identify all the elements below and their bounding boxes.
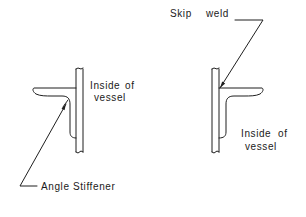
left-callout-leader: [20, 104, 66, 186]
diagram-canvas: Inside of vessel Angle Stiffener Skip we…: [0, 0, 306, 217]
left-vessel-wall: [76, 68, 83, 153]
left-detail: Inside of vessel Angle Stiffener: [20, 68, 135, 192]
right-detail: Skip weld Inside of vessel: [170, 8, 288, 153]
right-wall-break-top: [212, 68, 219, 69]
left-label-vessel: vessel: [94, 92, 126, 103]
right-leader-arrowhead: [220, 82, 225, 89]
left-label-inside: Inside: [90, 80, 120, 91]
left-wall-edges: [76, 69, 83, 152]
left-angle-stiffener: [33, 88, 76, 138]
left-label-of: of: [125, 80, 135, 91]
left-wall-break-bottom: [76, 151, 83, 153]
weld-label: weld: [205, 8, 229, 19]
skip-label: Skip: [170, 8, 192, 19]
right-label-vessel: vessel: [245, 141, 277, 152]
stiffener-diagram: Inside of vessel Angle Stiffener Skip we…: [0, 0, 306, 217]
right-vessel-wall: [212, 68, 219, 153]
right-label-inside: Inside: [241, 128, 271, 139]
angle-stiffener-label: Angle Stiffener: [41, 181, 115, 192]
right-wall-edges: [212, 69, 219, 152]
right-wall-break-bottom: [212, 151, 219, 153]
skip-weld-leader: [220, 20, 263, 88]
left-wall-break-top: [76, 68, 83, 69]
right-label-of: of: [278, 128, 288, 139]
